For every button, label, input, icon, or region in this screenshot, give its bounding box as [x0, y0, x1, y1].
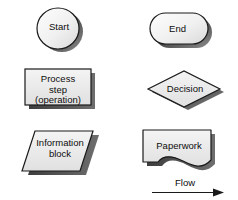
flowchart-legend-canvas: Start End Processstep(operation) Decisio…: [0, 0, 238, 200]
start-circle: [37, 8, 79, 49]
end-stadium: [150, 13, 208, 44]
arrow-right-icon: [213, 189, 224, 197]
flow-arrow: [152, 189, 224, 197]
symbol-process-step: [25, 69, 95, 109]
symbol-start: [37, 8, 83, 52]
symbol-information-block: [22, 131, 99, 175]
information-parallelogram: [22, 131, 93, 171]
symbol-decision: [148, 71, 224, 110]
symbol-end: [150, 13, 212, 48]
process-rect: [25, 69, 91, 105]
flowchart-symbols-svg: [0, 0, 238, 200]
decision-diamond: [148, 71, 220, 107]
symbol-paperwork: [143, 130, 215, 170]
